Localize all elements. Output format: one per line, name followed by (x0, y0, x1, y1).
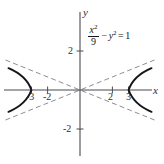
x-axis-label: x (153, 85, 158, 96)
y-tick-label-neg2: -2 (63, 124, 71, 134)
equation-fraction: x2 9 (88, 24, 99, 47)
hyperbola-figure: -3 -2 2 3 2 -2 y x x2 9 − y2 = 1 (0, 0, 164, 164)
equation-right-side: 1 (125, 31, 130, 41)
x-tick-label-pos2: 2 (108, 92, 113, 102)
x-tick-label-neg2: -2 (43, 92, 51, 102)
x-tick-label-pos3: 3 (126, 92, 131, 102)
equation-numerator: x2 (89, 24, 99, 36)
y-tick-label-pos2: 2 (68, 46, 73, 56)
y-axis-label: y (83, 7, 88, 18)
equation-second-exponent: 2 (113, 29, 117, 37)
equation-second-term: y2 (109, 30, 117, 41)
plot-canvas (0, 0, 164, 164)
equation-equals-sign: = (118, 31, 124, 41)
equation-annotation: x2 9 − y2 = 1 (88, 24, 130, 47)
equation-numerator-exponent: 2 (94, 23, 98, 31)
equation-minus-sign: − (102, 31, 108, 41)
equation-denominator: 9 (90, 37, 97, 48)
x-tick-label-neg3: -3 (26, 92, 34, 102)
